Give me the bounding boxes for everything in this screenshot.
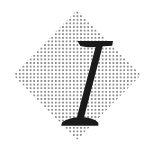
letter-i-top-serif bbox=[78, 41, 114, 47]
diamond-shape bbox=[13, 10, 141, 140]
logo-mark bbox=[0, 0, 151, 148]
canvas-background bbox=[0, 0, 151, 148]
logo-canvas bbox=[0, 0, 151, 148]
letter-i-bottom-serif bbox=[61, 117, 98, 125]
letter-i-stem bbox=[75, 42, 103, 123]
dotted-diamond bbox=[13, 10, 141, 140]
letter-i-glyph bbox=[61, 41, 113, 126]
